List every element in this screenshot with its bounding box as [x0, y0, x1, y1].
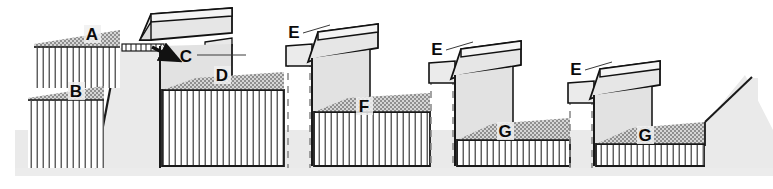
label-G1: G	[497, 122, 514, 141]
label-E3: E	[570, 60, 581, 79]
cross-section-diagram: A B C D E F E G E G	[0, 0, 773, 189]
label-B-text: B	[70, 82, 82, 101]
label-C-text: C	[180, 47, 192, 66]
label-E3-text: E	[570, 60, 581, 79]
label-D-text: D	[216, 66, 228, 85]
label-F-text: F	[359, 97, 369, 116]
label-G1-text: G	[498, 122, 511, 141]
label-D: D	[214, 66, 231, 85]
terrace-fill-d	[162, 72, 284, 166]
label-C: C	[180, 47, 192, 66]
label-E2: E	[431, 40, 442, 59]
label-F: F	[356, 97, 373, 116]
terrace-upper-left	[34, 30, 120, 88]
label-E1-text: E	[288, 23, 299, 42]
right-slope	[705, 77, 758, 168]
label-B: B	[68, 82, 85, 101]
label-E2-text: E	[431, 40, 442, 59]
label-G2-text: G	[638, 126, 651, 145]
diagram-stage: A B C D E F E G E G	[0, 0, 773, 189]
label-A: A	[84, 25, 101, 44]
label-A-text: A	[86, 25, 98, 44]
label-G2: G	[637, 126, 654, 145]
terrace-lower-left	[28, 86, 104, 168]
label-E1: E	[288, 23, 299, 42]
